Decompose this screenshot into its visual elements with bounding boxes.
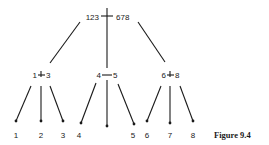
root-right-label: 678 (116, 13, 130, 22)
leaf-label: 8 (191, 131, 196, 140)
leaf-label: 7 (168, 131, 173, 140)
root-to-left-edge (50, 22, 80, 63)
middle-node-center: 4 5 (97, 71, 118, 80)
leaf-label: 6 (145, 131, 150, 140)
middle-center-b: 5 (113, 71, 118, 80)
middle-center-a: 4 (97, 71, 102, 80)
leaf-label: 5 (131, 131, 136, 140)
leaf-dots (15, 120, 195, 128)
middle-left-a: 1 (33, 71, 38, 80)
leaf-label: 1 (14, 131, 19, 140)
middle-node-left: 1 3 (33, 71, 51, 80)
leaf-edges (16, 80, 193, 126)
middle-left-b: 3 (46, 71, 51, 80)
root-left-label: 123 (86, 13, 100, 22)
tree-diagram: 123 678 1 3 4 5 6 8 (0, 0, 269, 145)
leaf-label: 2 (39, 131, 44, 140)
figure-caption: Figure 9.4 (214, 130, 251, 140)
leaf-label: 3 (61, 131, 66, 140)
root-to-right-edge (138, 22, 165, 62)
middle-right-a: 6 (162, 71, 167, 80)
leaf-labels: 1 2 3 4 5 6 7 8 (14, 131, 196, 140)
leaf-label: 4 (77, 131, 82, 140)
root-node: 123 678 (86, 8, 130, 68)
middle-right-b: 8 (175, 71, 180, 80)
middle-node-right: 6 8 (162, 71, 180, 80)
